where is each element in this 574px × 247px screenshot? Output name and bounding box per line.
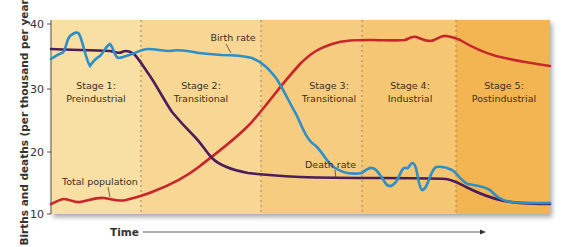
stage-1-sublabel: Preindustrial: [66, 93, 126, 104]
y-tick-40: 40: [30, 18, 44, 31]
stage-4-sublabel: Industrial: [388, 93, 433, 104]
stage-3-sublabel: Transitional: [301, 93, 356, 104]
svg-text:Total population: Total population: [61, 176, 138, 187]
stage-3-label: Stage 3:: [309, 80, 349, 91]
stage-3-band: [261, 20, 362, 214]
time-arrow-icon: [143, 230, 486, 235]
stage-2-label: Stage 2:: [181, 80, 221, 91]
demographic-transition-chart: 40 30 20 10 Births and deaths (per thous…: [0, 0, 574, 247]
stage-2-sublabel: Transitional: [173, 93, 228, 104]
stage-1-label: Stage 1:: [76, 80, 116, 91]
stage-5-sublabel: Postindustrial: [472, 93, 536, 104]
y-axis-label: Births and deaths (per thousand per year…: [18, 0, 30, 245]
y-tick-10: 10: [30, 208, 44, 221]
x-axis-label: Time: [110, 226, 139, 238]
svg-text:Death rate: Death rate: [305, 159, 356, 170]
stage-4-label: Stage 4:: [390, 80, 430, 91]
stage-4-band: [362, 20, 456, 214]
stage-5-label: Stage 5:: [484, 80, 524, 91]
svg-text:Birth rate: Birth rate: [210, 32, 255, 43]
y-tick-30: 30: [30, 83, 44, 96]
y-tick-20: 20: [30, 146, 44, 159]
